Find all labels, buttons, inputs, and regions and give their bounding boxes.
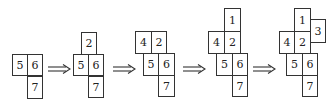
square-cell-5: 5: [143, 53, 159, 76]
double-arrow-icon: [183, 64, 206, 74]
square-cell-7: 7: [232, 75, 248, 97]
square-cell-4: 4: [135, 31, 152, 54]
square-cell-5: 5: [73, 54, 89, 76]
square-cell-5: 5: [216, 53, 233, 76]
square-cell-6: 6: [232, 53, 248, 76]
square-cell-6: 6: [88, 54, 104, 76]
square-cell-4: 4: [208, 31, 225, 54]
double-arrow-icon: [113, 64, 136, 74]
square-cell-6: 6: [302, 53, 318, 76]
square-cell-7: 7: [27, 76, 43, 99]
square-cell-2: 2: [81, 32, 97, 55]
square-cell-3: 3: [310, 19, 326, 43]
square-cell-1: 1: [224, 8, 241, 32]
square-cell-5: 5: [12, 54, 28, 76]
square-cell-2: 2: [294, 31, 311, 54]
square-cell-2: 2: [224, 31, 241, 54]
square-cell-4: 4: [279, 31, 295, 54]
net-unfolding-diagram: 5672567425671425671342567: [0, 0, 331, 106]
square-cell-6: 6: [27, 54, 43, 76]
square-cell-7: 7: [158, 75, 175, 97]
square-cell-1: 1: [294, 8, 311, 32]
double-arrow-icon: [48, 64, 71, 74]
double-arrow-icon: [253, 64, 276, 74]
square-cell-7: 7: [88, 76, 104, 98]
square-cell-7: 7: [302, 75, 318, 97]
square-cell-6: 6: [158, 53, 175, 76]
square-cell-5: 5: [286, 53, 303, 76]
square-cell-2: 2: [151, 31, 167, 54]
